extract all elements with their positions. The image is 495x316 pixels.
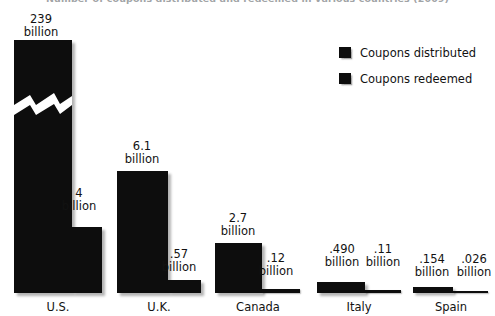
bar-spain-redeemed [453, 291, 488, 293]
bar-group-uk: 6.1 billion .57 billion U.K. [110, 0, 205, 316]
bar-spain-distributed [413, 287, 453, 293]
value-unit-canada-redeemed: billion [259, 264, 293, 278]
value-label-us-redeemed: 4 billion [51, 187, 107, 212]
value-label-uk-redeemed: .57 billion [151, 248, 207, 273]
value-label-uk-distributed: 6.1 billion [112, 140, 172, 165]
value-unit-spain-redeemed: billion [457, 265, 491, 279]
bar-group-canada: 2.7 billion .12 billion Canada [210, 0, 310, 316]
bar-us-distributed [14, 40, 72, 293]
bar-us-redeemed [72, 227, 102, 293]
value-label-canada-redeemed: .12 billion [248, 252, 304, 277]
bar-group-italy: .490 billion .11 billion Italy [312, 0, 408, 316]
bar-group-spain: .154 billion .026 billion Spain [404, 0, 495, 316]
bar-group-us: 239 billion 4 billion U.S. [0, 0, 105, 316]
value-unit-uk-redeemed: billion [162, 260, 196, 274]
bar-italy-redeemed [365, 290, 401, 293]
value-label-spain-redeemed: .026 billion [449, 253, 495, 278]
value-unit-spain-distributed: billion [415, 265, 449, 279]
value-unit-us-redeemed: billion [62, 199, 96, 213]
category-label-canada: Canada [214, 300, 302, 314]
value-unit-us-distributed: billion [24, 25, 58, 39]
value-unit-italy-redeemed: billion [366, 255, 400, 269]
bar-uk-redeemed [168, 280, 201, 293]
coupon-bar-chart: Number of coupons distributed and redeem… [0, 0, 495, 316]
value-unit-uk-distributed: billion [125, 152, 159, 166]
category-label-spain: Spain [412, 300, 490, 314]
bar-italy-distributed [317, 282, 365, 293]
value-label-canada-distributed: 2.7 billion [208, 212, 268, 237]
value-unit-canada-distributed: billion [221, 224, 255, 238]
value-label-us-distributed: 239 billion [10, 13, 72, 38]
bar-uk-distributed [117, 171, 168, 293]
category-label-uk: U.K. [117, 300, 201, 314]
plot-area: 239 billion 4 billion U.S. 6.1 billion [0, 0, 495, 316]
bar-canada-redeemed [262, 289, 300, 293]
value-label-italy-redeemed: .11 billion [356, 243, 410, 268]
value-unit-italy-distributed: billion [325, 255, 359, 269]
category-label-us: U.S. [14, 300, 102, 314]
category-label-italy: Italy [316, 300, 402, 314]
